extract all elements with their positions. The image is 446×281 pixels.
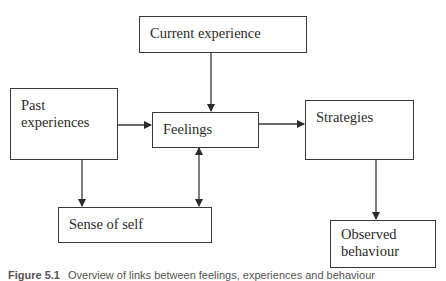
node-label-line-1: Past (21, 97, 117, 114)
node-label: Strategies (316, 109, 373, 125)
node-label: Sense of self (69, 216, 143, 232)
node-label-line-1: Observed (341, 226, 435, 243)
node-past-experiences: Past experiences (10, 88, 118, 160)
node-label-line-2: experiences (21, 114, 117, 131)
node-label: Current experience (150, 25, 261, 41)
node-strategies: Strategies (305, 100, 414, 160)
node-label-line-2: behaviour (341, 243, 435, 260)
node-sense-of-self: Sense of self (58, 207, 212, 243)
figure-caption-text: Overview of links between feelings, expe… (68, 269, 375, 281)
node-feelings: Feelings (152, 112, 259, 148)
figure-label: Figure 5.1 (8, 269, 60, 281)
node-label: Feelings (163, 121, 212, 137)
node-current-experience: Current experience (139, 16, 307, 53)
figure-caption: Figure 5.1Overview of links between feel… (8, 269, 375, 281)
node-observed-behaviour: Observed behaviour (330, 220, 436, 268)
